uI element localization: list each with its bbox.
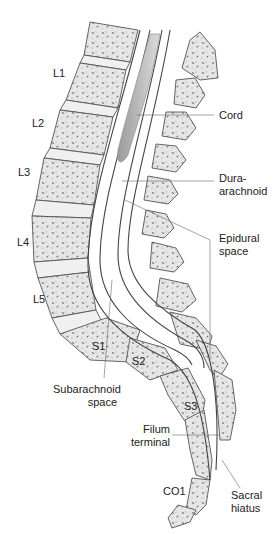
label-l1: L1 — [53, 67, 65, 80]
label-subarachnoid-space: Subarachnoid space — [53, 383, 117, 409]
spine-diagram — [0, 0, 277, 534]
label-co1: CO1 — [163, 485, 186, 498]
label-s1: S1 — [92, 340, 105, 353]
label-l2: L2 — [32, 117, 44, 130]
label-sacral-hiatus: Sacral hiatus — [231, 489, 262, 515]
label-filum-terminal: Filum terminal — [130, 423, 170, 449]
label-s3: S3 — [184, 400, 197, 413]
label-l3: L3 — [18, 166, 30, 179]
label-l4: L4 — [17, 236, 29, 249]
label-s2: S2 — [132, 355, 145, 368]
label-epidural-space: Epidural space — [219, 232, 259, 258]
label-dura-arachnoid: Dura- arachnoid — [219, 172, 267, 198]
label-l5: L5 — [33, 293, 45, 306]
label-cord: Cord — [219, 109, 243, 122]
